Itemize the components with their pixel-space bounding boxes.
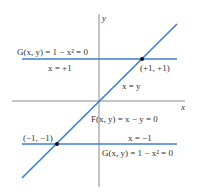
x-axis-label: x [181,103,185,112]
g-upper-sublabel: x = +1 [48,64,72,73]
point-minus-one [55,142,59,146]
diagram-canvas [0,0,198,192]
point-plus-one [140,57,144,61]
f-diagonal-equation: F(x, y) = x − y = 0 [91,115,158,124]
point-minus-one-label: (−1, −1) [23,134,53,143]
g-lower-sublabel: x = −1 [128,134,152,143]
g-lower-equation: G(x, y) = 1 − x² = 0 [102,149,173,158]
y-axis-label: y [102,14,106,23]
point-plus-one-label: (+1, +1) [140,64,170,73]
f-diagonal-sublabel: x = y [122,82,141,91]
g-upper-equation: G(x, y) = 1 − x² = 0 [17,48,88,57]
